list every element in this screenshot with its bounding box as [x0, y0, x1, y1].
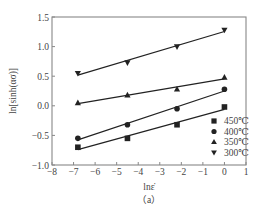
y-tick-label: 0.0 — [37, 101, 49, 111]
x-tick-label: 1 — [244, 167, 249, 177]
x-axis-label: lnε̇ — [143, 182, 155, 192]
square-marker — [174, 122, 180, 128]
y-tick-label: −0.5 — [32, 131, 49, 141]
legend-item: 400℃ — [211, 127, 249, 137]
chart-canvas: −8−7−6−5−4−3−2−101 −1.0−0.50.00.51.01.5 … — [0, 0, 262, 217]
square-marker — [125, 136, 131, 142]
triangle-down-marker — [75, 71, 81, 77]
fit-line — [78, 79, 225, 104]
x-tick-label: −6 — [90, 167, 100, 177]
circle-marker — [75, 136, 81, 142]
triangle-down-marker — [124, 60, 130, 66]
series-layer — [75, 28, 228, 150]
y-tick-label: −1.0 — [32, 161, 49, 171]
square-marker — [211, 118, 216, 123]
series-400℃ — [75, 86, 227, 141]
triangle-up-marker — [211, 139, 217, 144]
circle-marker — [222, 86, 228, 92]
square-marker — [222, 104, 228, 110]
legend-label: 400℃ — [224, 127, 249, 137]
triangle-down-marker — [174, 44, 180, 50]
x-tick-label: −5 — [112, 167, 122, 177]
legend-label: 450℃ — [224, 116, 249, 126]
x-tick-label: −3 — [155, 167, 165, 177]
legend-item: 350℃ — [211, 137, 249, 147]
y-axis-label: ln[sinh(ασ)] — [8, 68, 19, 114]
triangle-up-marker — [75, 100, 81, 106]
circle-marker — [174, 106, 180, 112]
series-350℃ — [75, 74, 228, 105]
legend-label: 300℃ — [224, 148, 249, 158]
y-tick-label: 1.5 — [37, 13, 49, 23]
square-marker — [75, 144, 81, 150]
triangle-up-marker — [221, 74, 227, 80]
legend-item: 450℃ — [211, 116, 249, 126]
figure-caption: （a） — [137, 194, 161, 205]
x-tick-label: 0 — [222, 167, 227, 177]
legend: 450℃400℃350℃300℃ — [211, 116, 249, 158]
triangle-down-marker — [211, 150, 217, 155]
x-tick-label: −7 — [69, 167, 79, 177]
x-tick-label: −2 — [176, 167, 186, 177]
x-axis-ticks: −8−7−6−5−4−3−2−101 — [47, 162, 249, 177]
series-300℃ — [75, 28, 228, 77]
y-tick-label: 1.0 — [37, 42, 49, 52]
fit-line — [78, 31, 225, 75]
y-tick-label: 0.5 — [37, 72, 49, 82]
circle-marker — [125, 122, 131, 128]
legend-item: 300℃ — [211, 148, 249, 158]
series-450℃ — [75, 104, 227, 150]
circle-marker — [211, 129, 216, 134]
legend-label: 350℃ — [224, 137, 249, 147]
x-tick-label: −4 — [133, 167, 143, 177]
x-tick-label: −1 — [198, 167, 208, 177]
